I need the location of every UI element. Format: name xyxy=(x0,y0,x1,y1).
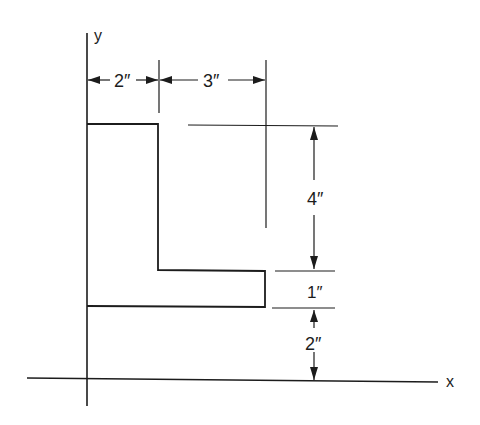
arrowhead-down-icon xyxy=(310,256,318,269)
arrowhead-down-icon xyxy=(310,367,318,380)
dim-label-2in-vertical: 2″ xyxy=(305,334,322,354)
x-axis-label: x xyxy=(446,373,454,390)
arrowhead-up-icon xyxy=(310,310,318,322)
l-shape-outline xyxy=(87,124,265,307)
x-axis xyxy=(27,378,438,382)
extension-line-top xyxy=(188,125,338,126)
dim-label-1in: 1″ xyxy=(307,283,322,302)
dim-label-3in: 3″ xyxy=(203,71,220,91)
arrowhead-left-icon xyxy=(160,76,172,84)
l-section-diagram: y x 2″ 3″ 4″ 1″ 2″ xyxy=(0,0,480,425)
arrowhead-left-icon xyxy=(88,76,100,84)
y-axis-label: y xyxy=(94,27,102,44)
arrowhead-up-icon xyxy=(310,127,318,140)
arrowhead-right-icon xyxy=(146,76,158,84)
dim-label-4in: 4″ xyxy=(307,189,324,209)
arrowhead-right-icon xyxy=(253,76,265,84)
dim-label-2in-horizontal: 2″ xyxy=(114,71,131,91)
